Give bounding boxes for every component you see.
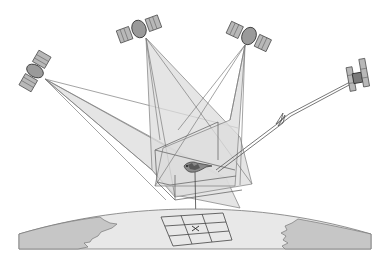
beams [45,38,252,208]
satellite-top-right-icon [225,19,272,54]
satellite-right-icon [345,58,370,91]
ground [19,209,371,249]
satellite-tracking-diagram [0,0,389,263]
satellite-left-icon [17,49,53,93]
satellite-top-center-icon [115,13,163,45]
